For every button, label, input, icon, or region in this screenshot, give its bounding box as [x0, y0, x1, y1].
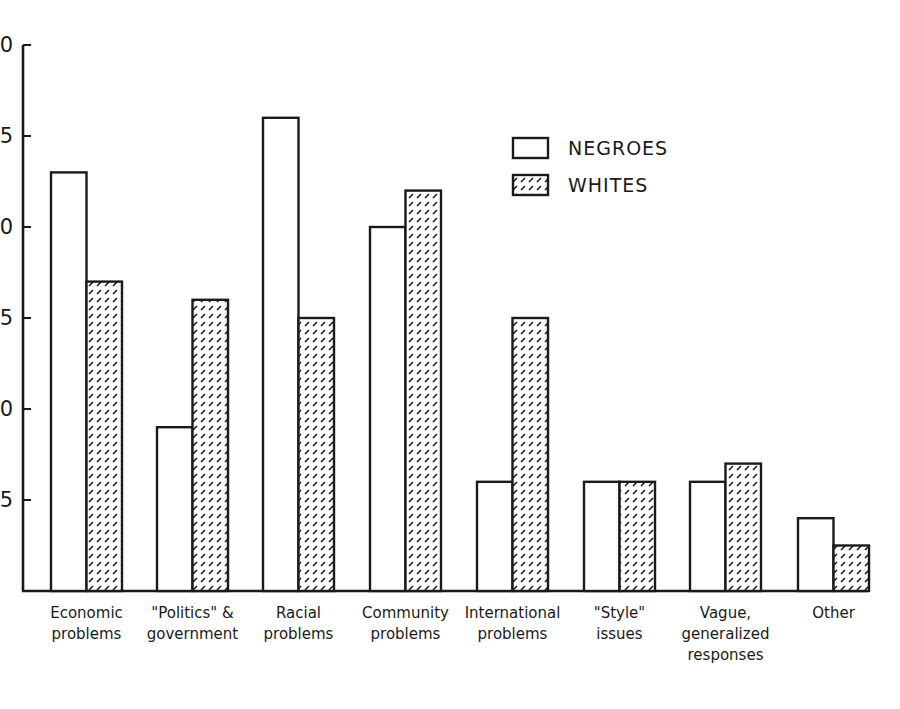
bar-whites-5 — [620, 482, 656, 591]
bar-negroes-2 — [263, 118, 299, 591]
legend: NEGROES WHITES — [513, 137, 668, 196]
category-label: problems — [264, 625, 334, 643]
category-label: Other — [812, 604, 855, 622]
bar-whites-4 — [513, 318, 549, 591]
bar-whites-7 — [834, 546, 870, 592]
bar-whites-0 — [87, 282, 123, 591]
category-label: Racial — [276, 604, 321, 622]
y-tick-label: 20 — [0, 215, 13, 239]
bar-negroes-6 — [690, 482, 726, 591]
bar-whites-1 — [193, 300, 229, 591]
bar-negroes-4 — [477, 482, 513, 591]
y-tick-label: 30 — [0, 33, 13, 57]
bar-negroes-7 — [798, 518, 834, 591]
y-tick-label: 15 — [0, 306, 13, 330]
bar-whites-3 — [406, 191, 442, 591]
category-label: responses — [688, 646, 764, 664]
bar-chart: 51015202530 Economicproblems"Politics" &… — [0, 0, 900, 709]
bar-whites-6 — [726, 464, 762, 591]
bar-negroes-0 — [51, 172, 87, 591]
category-label: Economic — [50, 604, 123, 622]
y-tick-label: 25 — [0, 124, 13, 148]
legend-label-whites: WHITES — [568, 174, 648, 196]
category-label: "Style" — [594, 604, 645, 622]
category-label: problems — [52, 625, 122, 643]
category-label: government — [147, 625, 239, 643]
legend-label-negroes: NEGROES — [568, 137, 668, 159]
category-label: International — [465, 604, 561, 622]
category-label: "Politics" & — [151, 604, 234, 622]
y-tick-label: 5 — [0, 488, 13, 512]
category-label: Community — [362, 604, 449, 622]
category-label: problems — [371, 625, 441, 643]
bar-negroes-3 — [370, 227, 406, 591]
category-label: Vague, — [700, 604, 751, 622]
bars — [51, 118, 869, 591]
bar-negroes-5 — [584, 482, 620, 591]
category-label: problems — [478, 625, 548, 643]
bar-whites-2 — [299, 318, 335, 591]
legend-swatch-whites — [513, 175, 548, 195]
category-label: issues — [596, 625, 643, 643]
category-label: generalized — [682, 625, 770, 643]
legend-swatch-negroes — [513, 138, 548, 158]
x-axis-labels: Economicproblems"Politics" &governmentRa… — [50, 604, 855, 664]
bar-negroes-1 — [157, 427, 193, 591]
y-tick-label: 10 — [0, 397, 13, 421]
